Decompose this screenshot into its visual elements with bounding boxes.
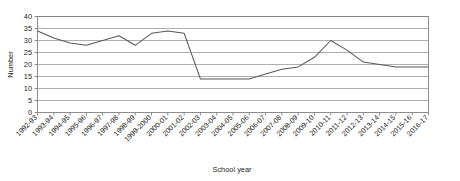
y-axis-ticks: 0510152025303540 [24,12,38,117]
y-tick-label: 5 [28,96,32,105]
x-axis-title: School year [212,165,252,174]
y-axis-title: Number [6,51,15,78]
y-tick-label: 30 [24,36,32,45]
y-tick-label: 25 [24,48,32,57]
y-axis-title-text: Number [6,51,15,78]
y-tick-label: 10 [24,84,32,93]
y-tick-label: 35 [24,24,32,33]
x-axis-tick-labels: 1992-931993-941994-951995-961996-971997-… [14,113,430,144]
y-tick-label: 15 [24,72,32,81]
chart-canvas: 0510152025303540 1992-931993-941994-9519… [0,0,460,181]
line-chart: 0510152025303540 1992-931993-941994-9519… [0,0,460,181]
y-tick-label: 40 [24,12,32,21]
y-tick-label: 20 [24,60,32,69]
x-axis-title-text: School year [212,165,252,174]
